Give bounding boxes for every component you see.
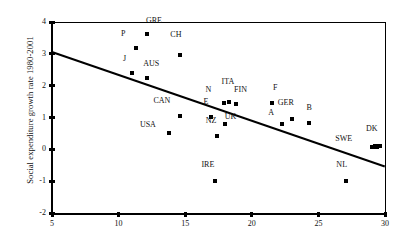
point-label-usa: USA <box>138 120 158 129</box>
data-point-can <box>178 114 182 118</box>
point-label-can: CAN <box>152 96 172 105</box>
y-tick-label: 2 <box>24 81 46 90</box>
point-label-nz: NZ <box>201 116 221 125</box>
point-label-n: N <box>199 85 219 94</box>
data-point-gre <box>145 32 149 36</box>
data-point-f <box>270 101 274 105</box>
data-point-n <box>222 101 226 105</box>
y-tick-label: 0 <box>24 144 46 153</box>
scatter-chart: Social expenditure growth rate 1980-2001… <box>0 0 406 252</box>
x-tick-label: 5 <box>40 219 64 228</box>
x-tick-label: 25 <box>306 219 330 228</box>
point-label-e: E <box>196 97 216 106</box>
x-tick-mark <box>117 212 120 217</box>
y-tick-mark <box>49 84 55 87</box>
data-point-ita <box>227 100 231 104</box>
y-tick-mark <box>49 116 55 119</box>
data-point-j <box>130 71 134 75</box>
point-label-p: P <box>113 29 133 38</box>
point-label-fin: FIN <box>230 85 250 94</box>
plot-right-border <box>385 22 386 214</box>
data-point-ger <box>290 117 294 121</box>
data-point-usa <box>167 131 171 135</box>
point-label-aus: AUS <box>141 59 161 68</box>
point-label-ire: IRE <box>198 160 218 169</box>
x-tick-mark <box>317 212 320 217</box>
data-point-nl <box>344 179 348 183</box>
y-tick-label: 4 <box>24 17 46 26</box>
y-tick-label: 3 <box>24 49 46 58</box>
data-point-ire <box>213 179 217 183</box>
trend-line <box>52 52 385 168</box>
data-point-uk <box>223 122 227 126</box>
point-label-uk: UK <box>220 112 240 121</box>
data-point-aus <box>145 76 149 80</box>
x-tick-mark <box>384 212 387 217</box>
x-tick-label: 30 <box>373 219 397 228</box>
data-point-a <box>280 122 284 126</box>
y-tick-label: 1 <box>24 113 46 122</box>
y-tick-label: -1 <box>24 176 46 185</box>
data-point-nz <box>215 134 219 138</box>
x-tick-label: 15 <box>173 219 197 228</box>
point-label-dk: DK <box>362 124 382 133</box>
x-tick-mark <box>51 212 54 217</box>
point-label-swe: SWE <box>334 134 354 143</box>
point-label-f: F <box>265 83 285 92</box>
data-point-p <box>134 46 138 50</box>
point-label-nl: NL <box>332 160 352 169</box>
y-tick-label: -2 <box>24 208 46 217</box>
data-point-b <box>307 121 311 125</box>
point-label-gre: GRE <box>144 16 164 25</box>
point-label-a: A <box>261 108 281 117</box>
point-label-b: B <box>299 103 319 112</box>
y-tick-mark <box>49 180 55 183</box>
data-point-ch <box>178 53 182 57</box>
y-tick-mark <box>49 21 55 24</box>
plot-top-border <box>51 22 386 23</box>
x-tick-label: 10 <box>107 219 131 228</box>
x-tick-mark <box>250 212 253 217</box>
y-tick-mark <box>49 148 55 151</box>
x-axis <box>51 213 386 215</box>
point-label-ger: GER <box>276 98 296 107</box>
point-label-ch: CH <box>166 30 186 39</box>
x-tick-mark <box>184 212 187 217</box>
data-point-dk <box>373 144 382 148</box>
point-label-j: J <box>115 54 135 63</box>
x-tick-label: 20 <box>240 219 264 228</box>
data-point-fin <box>234 102 238 106</box>
